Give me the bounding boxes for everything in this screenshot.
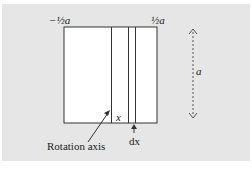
- dx-arrowhead-icon: [131, 124, 137, 129]
- strip-position-label: x: [115, 111, 121, 123]
- left-bound-label: −½a: [49, 14, 71, 26]
- height-label: a: [196, 65, 202, 77]
- strip-width-label: dx: [129, 135, 141, 147]
- square-plate-diagram: −½a ½a a x dx Rotation axis: [0, 0, 252, 169]
- figure-caption: [2, 163, 250, 169]
- square-plate: [64, 27, 157, 123]
- right-bound-label: ½a: [151, 14, 165, 26]
- rotation-axis-label: Rotation axis: [47, 140, 105, 152]
